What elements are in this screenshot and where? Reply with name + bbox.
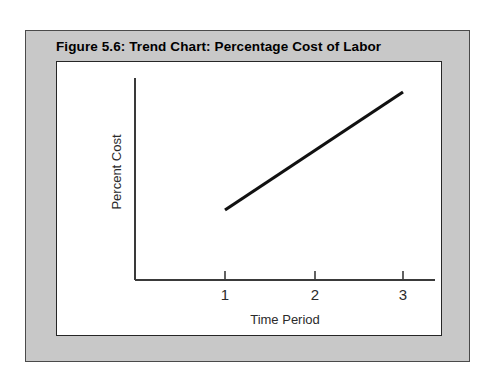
x-axis-title: Time Period [250,312,320,327]
y-axis-title: Percent Cost [109,134,124,210]
trend-chart-svg: 1 2 3 Time Period Percent Cost [57,62,443,337]
chart-card: 1 2 3 Time Period Percent Cost [56,61,442,336]
x-tick-label-1: 1 [221,286,229,303]
figure-caption: Figure 5.6: Trend Chart: Percentage Cost… [56,39,381,54]
figure-mat-panel: Figure 5.6: Trend Chart: Percentage Cost… [25,30,470,362]
figure-root: Figure 5.6: Trend Chart: Percentage Cost… [0,0,498,387]
x-tick-label-3: 3 [399,286,407,303]
trend-line-series [225,92,403,210]
x-tick-label-2: 2 [311,286,319,303]
